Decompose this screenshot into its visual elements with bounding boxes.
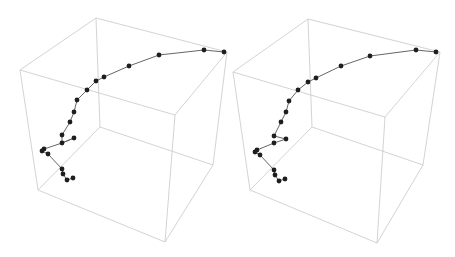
data-point [85, 88, 90, 93]
trajectory-line [42, 50, 224, 180]
data-point [279, 120, 284, 125]
box-edge [175, 52, 227, 115]
box-edge [250, 190, 377, 243]
data-point [339, 64, 344, 69]
data-point [75, 98, 80, 103]
data-point [157, 53, 162, 58]
data-point [60, 141, 65, 146]
box-edge [213, 52, 227, 165]
box-edge [165, 115, 175, 242]
data-point [287, 99, 292, 104]
data-point [253, 150, 258, 155]
data-point [258, 153, 263, 158]
plot-canvas [0, 0, 455, 257]
box-edge [312, 127, 423, 165]
data-point [296, 88, 301, 93]
data-point [94, 79, 99, 84]
right-3d-plot[interactable] [233, 19, 440, 243]
data-point [40, 149, 45, 154]
data-point [61, 172, 66, 177]
data-point [272, 168, 277, 173]
data-point [222, 50, 227, 55]
box-edge [233, 72, 385, 117]
box-edge [20, 70, 38, 190]
box-edge [20, 70, 175, 115]
data-point [202, 48, 207, 53]
data-point [65, 178, 70, 183]
box-edge [20, 18, 96, 70]
data-point [72, 136, 77, 141]
data-point [71, 176, 76, 181]
data-point [272, 141, 277, 146]
data-point [284, 110, 289, 115]
data-point [368, 54, 373, 59]
box-edge [96, 18, 100, 127]
box-edge [38, 190, 165, 242]
box-edge [165, 165, 213, 242]
box-edge [233, 19, 308, 72]
box-edge [377, 165, 423, 243]
data-point [127, 64, 132, 69]
data-point [102, 75, 107, 80]
data-point [283, 177, 288, 182]
data-point [60, 133, 65, 138]
data-point [414, 48, 419, 53]
box-edge [308, 19, 312, 127]
data-point [277, 179, 282, 184]
data-point [314, 76, 319, 81]
data-point [60, 167, 65, 172]
box-edge [96, 18, 227, 52]
box-edge [377, 117, 385, 243]
data-point [46, 152, 51, 157]
box-edge [100, 127, 213, 165]
box-edge [308, 19, 440, 52]
data-point [284, 137, 289, 142]
data-point [272, 134, 277, 139]
data-point [306, 80, 311, 85]
data-point [434, 50, 439, 55]
left-3d-plot[interactable] [20, 18, 227, 242]
data-point [68, 120, 73, 125]
data-point [273, 173, 278, 178]
trajectory-line [255, 50, 436, 181]
box-edge [233, 72, 250, 190]
data-point [72, 110, 77, 115]
